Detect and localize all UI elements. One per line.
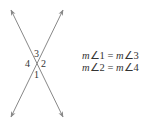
measure-symbol: m xyxy=(116,50,124,61)
angle-label-1: 1 xyxy=(34,69,39,80)
angle-1: ∠1 xyxy=(90,50,105,61)
equals-sign: = xyxy=(105,62,116,73)
equation-2: m∠2 = m∠4 xyxy=(82,62,139,74)
angle-label-4: 4 xyxy=(25,58,30,69)
angle-3: ∠3 xyxy=(124,50,139,61)
angle-label-3: 3 xyxy=(34,48,39,59)
angle-4: ∠4 xyxy=(124,62,139,73)
measure-symbol: m xyxy=(82,62,90,73)
measure-symbol: m xyxy=(82,50,90,61)
measure-symbol: m xyxy=(116,62,124,73)
angle-label-2: 2 xyxy=(41,58,46,69)
equals-sign: = xyxy=(105,50,116,61)
equation-1: m∠1 = m∠3 xyxy=(82,50,139,62)
angle-2: ∠2 xyxy=(90,62,105,73)
